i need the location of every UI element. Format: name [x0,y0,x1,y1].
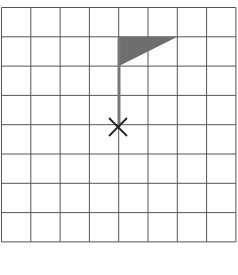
grid-diagram [0,0,238,275]
